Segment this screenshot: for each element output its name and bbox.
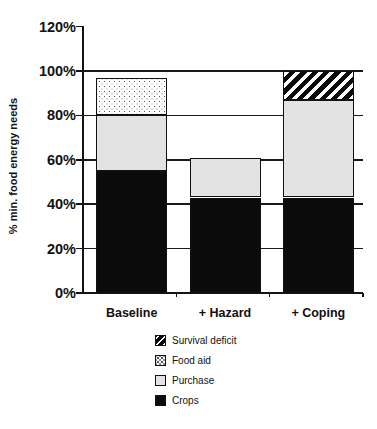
light-gray-swatch-icon xyxy=(155,375,166,386)
y-axis-tick-60 xyxy=(76,159,83,161)
y-tick-label-100: 100% xyxy=(24,63,76,79)
bar-segment-hazard-purchase xyxy=(190,158,261,198)
y-axis-tick-120 xyxy=(76,26,83,28)
bar-segment-coping-survival-deficit xyxy=(283,71,354,100)
bar-segment-baseline-food-aid xyxy=(96,78,167,116)
bar-segment-baseline-purchase xyxy=(96,115,167,171)
y-axis-tick-80 xyxy=(76,115,83,117)
y-axis-tick-40 xyxy=(76,203,83,205)
solid-black-swatch-icon xyxy=(155,395,166,406)
dotted-swatch-icon xyxy=(155,355,166,366)
legend-item-food-aid: Food aid xyxy=(155,354,236,367)
x-axis-tick-1 xyxy=(176,293,178,297)
x-axis-tick-3 xyxy=(362,293,364,297)
y-axis-tick-100 xyxy=(76,70,83,72)
diagonal-hatch-swatch-icon xyxy=(155,335,166,346)
bar-segment-baseline-crops xyxy=(96,171,167,293)
legend-label-purchase: Purchase xyxy=(172,375,214,387)
y-axis-title: % min. food energy needs xyxy=(7,82,21,250)
legend-item-purchase: Purchase xyxy=(155,374,236,387)
y-tick-label-80: 80% xyxy=(24,107,76,123)
legend-item-survival-deficit: Survival deficit xyxy=(155,334,236,347)
y-tick-label-20: 20% xyxy=(24,241,76,257)
x-category-label-coping: + Coping xyxy=(270,306,366,320)
legend-item-crops: Crops xyxy=(155,394,236,407)
y-axis-tick-0 xyxy=(76,292,83,294)
legend-label-food-aid: Food aid xyxy=(172,355,211,367)
x-category-label-baseline: Baseline xyxy=(84,306,180,320)
y-tick-label-40: 40% xyxy=(24,196,76,212)
x-axis-tick-2 xyxy=(269,293,271,297)
stacked-bar-chart-figure: % min. food energy needs 0%20%40%60%80%1… xyxy=(0,0,377,429)
y-tick-label-60: 60% xyxy=(24,152,76,168)
bar-segment-coping-purchase xyxy=(283,100,354,198)
legend: Survival deficitFood aidPurchaseCrops xyxy=(155,334,236,407)
legend-label-survival-deficit: Survival deficit xyxy=(172,335,236,347)
y-axis-tick-20 xyxy=(76,248,83,250)
y-tick-label-0: 0% xyxy=(24,285,76,301)
legend-label-crops: Crops xyxy=(172,395,199,407)
y-tick-label-120: 120% xyxy=(24,19,76,35)
bar-segment-coping-crops xyxy=(283,198,354,293)
x-category-label-hazard: + Hazard xyxy=(177,306,273,320)
bar-segment-hazard-crops xyxy=(190,198,261,293)
